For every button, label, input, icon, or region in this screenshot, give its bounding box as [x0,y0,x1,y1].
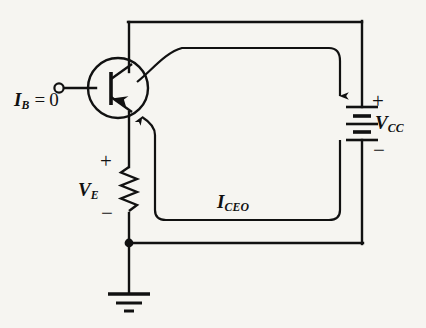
circuit-diagram-figure: IB=0 VE VCC ICEO + − + − [0,0,426,328]
label-ve-symbol: V [78,179,91,200]
label-supply-voltage: VCC [375,113,404,132]
label-emitter-voltage: VE [78,180,99,199]
ground-symbol [108,294,150,311]
wire-junction-dot [125,239,134,248]
label-ib-value: 0 [49,89,59,110]
label-vcc-subscript: CC [388,122,404,135]
label-iceo-subscript: CEO [224,201,249,214]
iceo-path-upper [137,48,340,96]
polarity-minus-battery: − [373,140,385,161]
label-leakage-current: ICEO [217,192,249,211]
circuit-schematic-svg [0,0,426,328]
label-ib-equals: = [35,89,46,110]
polarity-plus-battery: + [372,91,384,112]
polarity-plus-emitter-resistor: + [100,151,112,172]
emitter-resistor [121,167,137,211]
label-vcc-symbol: V [375,112,388,133]
label-base-current: IB=0 [14,90,59,109]
polarity-minus-emitter-resistor: − [101,203,113,224]
label-ib-subscript: B [21,99,29,112]
label-ve-subscript: E [91,189,99,202]
